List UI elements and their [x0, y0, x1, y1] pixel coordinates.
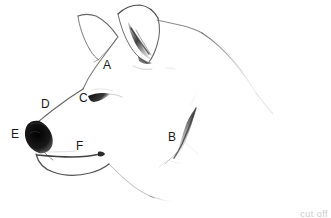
caption-watermark: cut off: [300, 209, 328, 218]
callout-label-a: A: [103, 59, 111, 71]
callout-label-e: E: [11, 128, 19, 140]
figure-root: A B C D E F cut off: [0, 0, 331, 218]
callout-label-c: C: [79, 92, 88, 104]
callout-label-b: B: [168, 131, 176, 143]
callout-label-f: F: [76, 140, 84, 152]
callout-label-d: D: [41, 98, 50, 110]
